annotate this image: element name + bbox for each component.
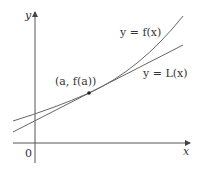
tangent-point: [87, 91, 91, 95]
tangent-L-label: y = L(x): [142, 67, 188, 80]
curve-f-label: y = f(x): [119, 26, 161, 39]
origin-label: 0: [25, 147, 32, 160]
point-label: (a, f(a)): [55, 75, 96, 88]
diagram-canvas: y x 0 y = f(x) y = L(x) (a, f(a)): [0, 0, 202, 175]
y-axis-label: y: [24, 9, 32, 22]
x-axis-label: x: [183, 145, 190, 158]
